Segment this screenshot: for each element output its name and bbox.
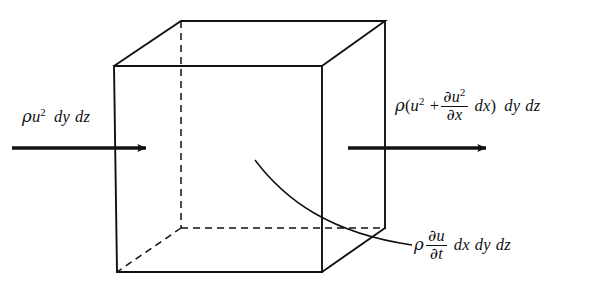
outflow-denominator-partial: ∂ bbox=[446, 105, 455, 124]
cube-front-face bbox=[114, 66, 322, 272]
unsteady-rho: ρ bbox=[414, 235, 424, 254]
inflow-label: ρu2dydz bbox=[22, 108, 90, 125]
momentum-flux-figure: ρu2dydz ρ(u2+∂u2∂xdx)dydz ρ∂u∂tdxdydz bbox=[0, 0, 591, 295]
outflow-numerator-u: u bbox=[452, 88, 460, 105]
outflow-dz: dz bbox=[525, 96, 540, 115]
outflow-rho: ρ bbox=[395, 96, 405, 115]
outflow-u-exponent: 2 bbox=[419, 95, 425, 107]
cube-bottom-right-diagonal bbox=[322, 228, 385, 272]
unsteady-numerator-u: u bbox=[436, 227, 444, 244]
outflow-u: u bbox=[411, 96, 419, 115]
outflow-dy: dy bbox=[504, 96, 520, 115]
unsteady-denominator-t: t bbox=[438, 245, 443, 262]
outflow-denominator-x: x bbox=[455, 106, 462, 123]
inflow-dy: dy bbox=[54, 107, 70, 126]
cube-visible-edges bbox=[114, 21, 385, 272]
outflow-close-paren: ) bbox=[491, 96, 497, 115]
unsteady-denominator-partial: ∂ bbox=[430, 244, 439, 263]
outflow-partial-fraction: ∂u2∂x bbox=[441, 89, 467, 124]
outflow-dx: dx bbox=[475, 96, 491, 115]
unsteady-dx: dx bbox=[454, 235, 470, 254]
inflow-rho: ρ bbox=[22, 107, 32, 126]
cube-hidden-edges bbox=[117, 21, 385, 272]
outflow-plus: + bbox=[430, 96, 440, 115]
inflow-dz: dz bbox=[75, 107, 90, 126]
outflow-fraction-denominator: ∂x bbox=[441, 107, 467, 124]
cube-top-face-edges bbox=[114, 21, 385, 66]
inflow-u-exponent: 2 bbox=[40, 106, 46, 118]
hidden-edge-back-bottom-left-to-front-bottom-left bbox=[117, 228, 181, 272]
unsteady-fraction-denominator: ∂t bbox=[426, 246, 447, 263]
unsteady-term-leader-line bbox=[255, 160, 412, 245]
unsteady-partial-fraction: ∂u∂t bbox=[426, 228, 447, 263]
unsteady-dy: dy bbox=[475, 235, 491, 254]
outflow-numerator-exponent: 2 bbox=[460, 86, 466, 98]
unsteady-term-label: ρ∂u∂tdxdydz bbox=[414, 228, 511, 263]
unsteady-dz: dz bbox=[496, 235, 511, 254]
outflow-numerator-partial: ∂ bbox=[443, 87, 452, 106]
outflow-label: ρ(u2+∂u2∂xdx)dydz bbox=[395, 89, 540, 124]
